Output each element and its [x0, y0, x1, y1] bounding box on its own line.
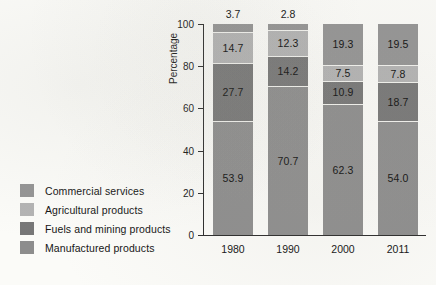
bar-segment	[213, 24, 253, 32]
bar-segment: 7.8	[378, 65, 418, 81]
y-axis-tick: 100	[198, 24, 204, 25]
legend-item: Agricultural products	[20, 200, 171, 219]
x-axis-tick-label: 1990	[268, 243, 308, 255]
bar-top-annotation: 3.7	[213, 8, 253, 20]
x-axis-tick-label: 2011	[378, 243, 418, 255]
bar-top-annotation: 2.8	[268, 8, 308, 20]
y-axis-title: Percentage	[168, 33, 179, 84]
bar-segment: 27.7	[213, 63, 253, 121]
bar-segment-value: 70.7	[277, 156, 298, 167]
legend-item: Manufactured products	[20, 238, 171, 257]
x-axis-line	[203, 235, 426, 236]
y-axis-tick-label: 100	[177, 19, 194, 30]
bar-segment-value: 54.0	[387, 173, 408, 184]
legend-item: Fuels and mining products	[20, 219, 171, 238]
bar-segment-value: 53.9	[222, 173, 243, 184]
bar-segment: 19.3	[323, 24, 363, 65]
bar-segment-value: 7.8	[390, 69, 405, 80]
legend-label-commercial-services: Commercial services	[45, 185, 144, 197]
legend-swatch-fuels-and-mining-products	[20, 222, 34, 235]
bar-segment: 14.7	[213, 32, 253, 63]
bar-1980: 14.727.753.93.71980	[213, 24, 253, 235]
y-axis-tick: 80	[198, 66, 204, 67]
bar-segment-value: 14.7	[222, 43, 243, 54]
y-axis-line	[203, 24, 204, 236]
bar-segment: 19.5	[378, 24, 418, 65]
bar-2000: 19.37.510.962.32000	[323, 24, 363, 235]
bar-segment-value: 10.9	[332, 87, 353, 98]
bar-segment: 10.9	[323, 81, 363, 104]
y-axis-tick: 20	[198, 193, 204, 194]
y-axis-tick-label: 20	[183, 187, 194, 198]
y-axis-tick-label: 80	[183, 61, 194, 72]
legend-label-agricultural-products: Agricultural products	[45, 204, 143, 216]
x-axis-tick-label: 1980	[213, 243, 253, 255]
legend-label-manufactured-products: Manufactured products	[45, 242, 155, 254]
bar-segment: 14.2	[268, 56, 308, 86]
plot-area: 020406080100 14.727.753.93.7198012.314.2…	[203, 24, 419, 236]
bar-segment: 62.3	[323, 104, 363, 235]
chart-figure: Commercial services Agricultural product…	[0, 0, 436, 285]
legend-swatch-commercial-services	[20, 184, 34, 197]
bar-segment-value: 19.5	[387, 39, 408, 50]
bar-segment: 18.7	[378, 82, 418, 121]
bar-segment: 54.0	[378, 121, 418, 235]
y-axis-tick-label: 0	[188, 230, 194, 241]
bar-2011: 19.57.818.754.02011	[378, 24, 418, 235]
y-axis-tick: 60	[198, 108, 204, 109]
bar-segment-value: 19.3	[332, 39, 353, 50]
y-axis-tick-label: 60	[183, 103, 194, 114]
bar-segment: 70.7	[268, 86, 308, 235]
chart-legend: Commercial services Agricultural product…	[20, 181, 171, 257]
y-axis-tick: 0	[198, 235, 204, 236]
bar-segment: 53.9	[213, 121, 253, 235]
bar-segment: 7.5	[323, 65, 363, 81]
legend-swatch-agricultural-products	[20, 203, 34, 216]
bar-segment-value: 62.3	[332, 165, 353, 176]
y-axis-tick: 40	[198, 151, 204, 152]
legend-label-fuels-and-mining-products: Fuels and mining products	[45, 223, 171, 235]
y-axis-tick-label: 40	[183, 145, 194, 156]
bar-segment-value: 14.2	[277, 66, 298, 77]
legend-item: Commercial services	[20, 181, 171, 200]
bar-segment-value: 7.5	[335, 68, 350, 79]
legend-swatch-manufactured-products	[20, 241, 34, 254]
bar-1990: 12.314.270.72.81990	[268, 24, 308, 235]
x-axis-tick-label: 2000	[323, 243, 363, 255]
bar-segment-value: 18.7	[387, 97, 408, 108]
bar-segment-value: 12.3	[277, 38, 298, 49]
bar-segment-value: 27.7	[222, 87, 243, 98]
bar-segment: 12.3	[268, 30, 308, 56]
